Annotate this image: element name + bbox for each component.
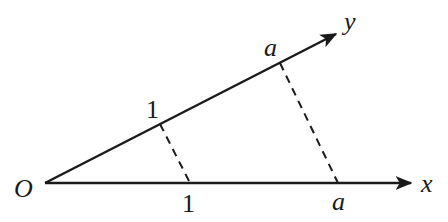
oblique-coordinate-diagram: O x y 1 1 a a — [0, 0, 448, 222]
x-axis-label: x — [420, 169, 433, 198]
x-tick-a-label: a — [332, 187, 345, 216]
y-axis-label: y — [341, 7, 356, 36]
y-tick-a-label: a — [264, 33, 277, 62]
x-tick-1-label: 1 — [182, 189, 195, 218]
y-tick-1-label: 1 — [146, 95, 159, 124]
dashed-segment-1 — [160, 124, 190, 183]
origin-label: O — [14, 174, 33, 203]
dashed-segment-a — [280, 63, 338, 183]
y-axis — [45, 34, 336, 183]
